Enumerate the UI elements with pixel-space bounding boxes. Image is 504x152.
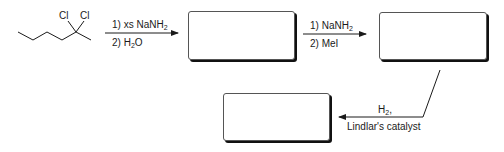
step2-reagent-1: 1) NaNH2 xyxy=(310,20,353,31)
step3-reagent-2: Lindlar's catalyst xyxy=(347,121,421,132)
answer-box-2[interactable] xyxy=(379,12,487,60)
step3-reagent-1: H2, xyxy=(378,104,392,115)
chlorine-label-2: Cl xyxy=(80,10,89,21)
step2-reagent-2: 2) MeI xyxy=(310,38,338,49)
step1-reagent-2: 2) H2O xyxy=(112,37,143,48)
answer-box-3[interactable] xyxy=(223,93,330,141)
starting-material-skeleton xyxy=(18,21,91,40)
step1-reagent-1: 1) xs NaNH2 xyxy=(112,19,168,30)
answer-box-1[interactable] xyxy=(188,11,295,60)
chlorine-label-1: Cl xyxy=(59,10,68,21)
